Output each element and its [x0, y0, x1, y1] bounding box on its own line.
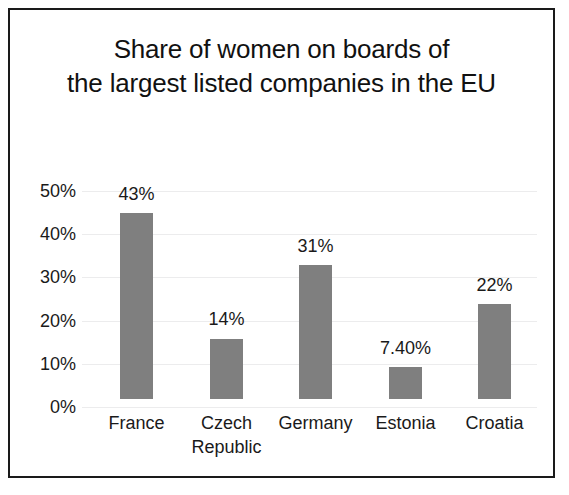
x-axis-category-line: Germany — [266, 412, 366, 436]
x-axis-category-label: Germany — [266, 412, 366, 436]
chart-title-line-1: Share of women on boards of — [10, 32, 553, 66]
chart-frame: Share of women on boards of the largest … — [8, 8, 555, 478]
bar[interactable] — [478, 304, 511, 399]
y-axis-tick-label: 0% — [20, 397, 76, 418]
x-axis-category-line: France — [87, 412, 187, 436]
y-axis-tick-label: 30% — [20, 267, 76, 288]
x-axis-category-label: Czech Republic — [177, 412, 277, 460]
x-axis: France Czech Republic Germany Estonia Cr… — [82, 406, 537, 466]
bar-value-label: 43% — [118, 184, 154, 205]
bar[interactable] — [120, 213, 153, 399]
y-axis-tick-label: 40% — [20, 224, 76, 245]
bar-value-label: 31% — [297, 236, 333, 257]
y-axis-tick-label: 10% — [20, 353, 76, 374]
bar-value-label: 22% — [476, 275, 512, 296]
x-axis-category-line: Croatia — [445, 412, 545, 436]
x-axis-category-line: Republic — [177, 436, 277, 460]
chart-title: Share of women on boards of the largest … — [10, 32, 553, 101]
y-axis-tick-label: 50% — [20, 181, 76, 202]
plot-area: 43% 14% 31% 7.40% 22% — [82, 175, 537, 399]
chart-title-line-2: the largest listed companies in the EU — [10, 66, 553, 100]
y-axis: 50% 40% 30% 20% 10% 0% — [18, 175, 76, 399]
bar[interactable] — [389, 367, 422, 399]
x-axis-category-label: Estonia — [356, 412, 456, 436]
bar[interactable] — [210, 339, 243, 400]
x-axis-category-line: Czech — [177, 412, 277, 436]
bar-value-label: 14% — [208, 309, 244, 330]
x-axis-category-label: France — [87, 412, 187, 436]
bar[interactable] — [299, 265, 332, 399]
x-axis-category-label: Croatia — [445, 412, 545, 436]
y-axis-tick-label: 20% — [20, 310, 76, 331]
x-axis-category-line: Estonia — [356, 412, 456, 436]
bar-value-label: 7.40% — [380, 338, 431, 359]
